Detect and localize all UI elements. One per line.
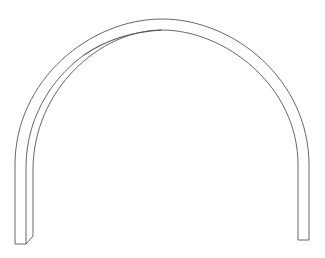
- arch-intrados: [33, 30, 298, 240]
- arch-diagram: [0, 0, 325, 258]
- arch-outer-edge: [15, 19, 309, 244]
- left-pier-base: [15, 236, 33, 244]
- arch-crown-line: [84, 30, 162, 55]
- arch-drawing: [0, 0, 325, 258]
